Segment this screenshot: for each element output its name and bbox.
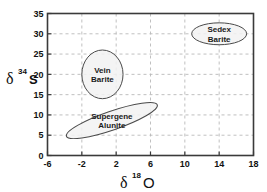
y-tick-label: 25 [33, 49, 43, 59]
x-tick-label: -6 [43, 159, 51, 169]
field-label-line: Barite [91, 75, 114, 84]
x-axis-title-superscript: 18 [132, 171, 141, 180]
x-tick-label: 14 [214, 159, 224, 169]
y-tick-label: 35 [33, 9, 43, 19]
x-tick-label: 2 [114, 159, 119, 169]
isotope-field-chart: -6-22610141805101520253035 SedexBariteVe… [0, 0, 267, 192]
field-label-line: Sedex [207, 25, 231, 34]
x-tick-label: 10 [180, 159, 190, 169]
x-tick-label: 18 [248, 159, 258, 169]
x-axis-title-symbol: δ [120, 174, 128, 191]
field-label-line: Vein [94, 66, 111, 75]
y-tick-label: 30 [33, 29, 43, 39]
y-axis-title-symbol: δ [6, 70, 14, 87]
y-tick-label: 15 [33, 90, 43, 100]
y-axis-title-superscript: 34 [18, 67, 27, 76]
x-tick-label: -2 [78, 159, 86, 169]
field-label-line: Supergene [91, 112, 133, 121]
x-tick-label: 6 [148, 159, 153, 169]
y-tick-label: 10 [33, 110, 43, 120]
x-axis-title-element: O [143, 174, 155, 191]
y-axis-title-element: S [29, 72, 38, 87]
chart-canvas: -6-22610141805101520253035 SedexBariteVe… [0, 0, 267, 192]
field-label-line: Barite [208, 35, 231, 44]
field-label-line: Alunite [98, 121, 126, 130]
y-tick-label: 0 [38, 151, 43, 161]
y-tick-label: 5 [38, 130, 43, 140]
